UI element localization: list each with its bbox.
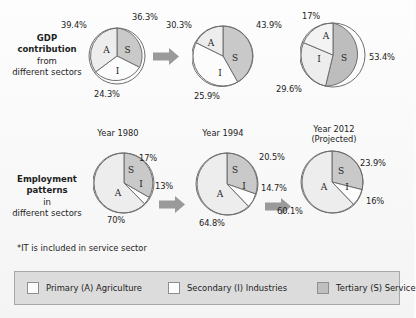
legend-label-secondary: Secondary (I) Industries [187,283,287,293]
legend-bar: Primary (A) Agriculture Secondary (I) In… [14,271,400,305]
pie-svg-gdp-1994: A S I [192,25,254,87]
wedge-letter-s: S [124,45,130,55]
row-label-gdp: GDP contribution from different sectors [8,33,86,78]
wedge-letter-s: S [232,53,238,63]
value-label-primary-gdp-1980: 39.4% [61,20,87,30]
pie-svg-employment-1994: S I A [195,152,259,216]
footnote: *IT is included in service sector [17,243,147,253]
wedge-letter-a: A [102,45,110,55]
value-label-secondary-gdp-1980: 24.3% [94,89,120,99]
legend-item-secondary: Secondary (I) Industries [168,282,287,294]
row-label-employment: Employment patterns in different sectors [4,174,90,219]
row-label-gdp-line2: contribution [8,44,86,55]
wedge-letter-s: S [128,165,134,175]
row-label-gdp-line3: from [8,56,86,67]
wedge-letter-a: A [322,31,330,41]
legend-swatch-primary-icon [27,282,39,294]
wedge-letter-i: I [242,181,246,191]
wedge-letter-s: S [338,166,344,176]
legend-item-tertiary: Tertiary (S) Service [317,282,416,294]
wedge-letter-a: A [114,188,122,198]
legend-label-tertiary: Tertiary (S) Service [336,283,416,293]
value-label-primary-gdp-1994: 30.3% [166,20,192,30]
wedge-letter-s: S [341,53,347,63]
pie-svg-employment-2012: S I A [300,150,364,214]
year-label-2012-line1: Year 2012 [313,124,354,134]
arrow-icon-employment-1 [159,196,185,217]
year-label-1980-line1: Year 1980 [97,128,138,138]
row-label-employment-line1: Employment [4,174,90,185]
pie-chart-gdp-1980: A S I [88,27,146,85]
row-label-gdp-line1: GDP [8,33,86,44]
value-label-secondary-employment-2012: 16% [366,196,384,206]
pie-chart-gdp-2012: A S I [300,22,366,88]
value-label-tertiary-gdp-1980: 36.3% [132,12,158,22]
legend-label-primary: Primary (A) Agriculture [46,283,142,293]
legend-swatch-secondary-icon [168,282,180,294]
value-label-secondary-employment-1994: 14.7% [261,183,287,193]
wedge-letter-i: I [116,66,120,76]
value-label-tertiary-employment-1994: 20.5% [259,152,285,162]
value-label-primary-employment-2012: 60.1% [277,206,303,216]
wedge-letter-a: A [216,189,224,199]
pie-svg-gdp-2012: A S I [300,22,366,88]
wedge-letter-i: I [218,68,222,78]
pie-chart-gdp-1994: A S I [192,25,254,87]
value-label-secondary-employment-1980: 13% [155,181,173,191]
row-label-employment-line4: different sectors [4,208,90,219]
legend-item-primary: Primary (A) Agriculture [27,282,142,294]
year-label-2012-line2: (Projected) [311,134,356,144]
value-label-tertiary-employment-2012: 23.9% [360,158,386,168]
pie-chart-employment-2012: S I A [300,150,364,214]
wedge-letter-i: I [317,54,321,64]
value-label-primary-gdp-2012: 17% [302,11,320,21]
value-label-primary-employment-1980: 70% [107,215,125,225]
arrow-right-icon [159,196,185,213]
year-label-1980: Year 1980 [78,128,158,138]
arrow-right-icon [153,48,179,65]
row-label-employment-line2: patterns [4,185,90,196]
year-label-2012: Year 2012 (Projected) [292,124,376,144]
row-label-gdp-line4: different sectors [8,67,86,78]
row-label-employment-line3: in [4,197,90,208]
pie-chart-employment-1994: S I A [195,152,259,216]
arrow-icon-gdp-1 [153,48,179,69]
value-label-tertiary-gdp-1994: 43.9% [256,20,282,30]
value-label-tertiary-gdp-2012: 53.4% [369,52,395,62]
pie-svg-gdp-1980: A S I [88,27,146,85]
value-label-secondary-gdp-2012: 29.6% [276,84,302,94]
value-label-tertiary-employment-1980: 17% [139,153,157,163]
year-label-1994-line1: Year 1994 [202,128,243,138]
value-label-secondary-gdp-1994: 25.9% [194,91,220,101]
value-label-primary-employment-1994: 64.8% [199,218,225,228]
wedge-letter-s: S [232,165,238,175]
wedge-letter-i: I [139,179,143,189]
wedge-letter-a: A [320,182,328,192]
wedge-letter-a: A [207,38,215,48]
year-label-1994: Year 1994 [183,128,263,138]
legend-swatch-tertiary-icon [317,282,329,294]
wedge-letter-i: I [345,182,349,192]
